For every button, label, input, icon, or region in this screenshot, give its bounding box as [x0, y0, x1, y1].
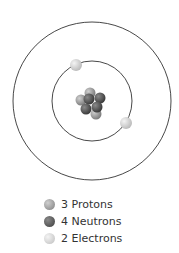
electron-swatch-icon — [44, 233, 55, 244]
legend: 3 Protons 4 Neutrons 2 Electrons — [44, 196, 122, 247]
neutron-swatch-icon — [44, 216, 55, 227]
proton-swatch-icon — [44, 199, 55, 210]
legend-label: 3 Protons — [61, 198, 113, 211]
electron-2 — [120, 117, 132, 129]
legend-item-electrons: 2 Electrons — [44, 230, 122, 247]
nucleus — [76, 88, 106, 120]
legend-item-neutrons: 4 Neutrons — [44, 213, 122, 230]
electron-1 — [70, 59, 82, 71]
legend-label: 4 Neutrons — [61, 215, 122, 228]
legend-label: 2 Electrons — [61, 232, 122, 245]
legend-item-protons: 3 Protons — [44, 196, 122, 213]
atom-diagram — [0, 0, 179, 185]
